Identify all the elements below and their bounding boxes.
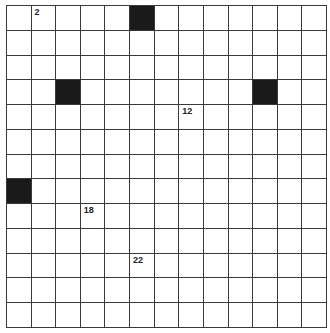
grid-cell[interactable] — [81, 179, 106, 204]
grid-cell[interactable] — [32, 56, 57, 81]
grid-cell[interactable] — [105, 31, 130, 56]
grid-cell[interactable] — [179, 303, 204, 328]
grid-cell[interactable] — [278, 179, 303, 204]
grid-cell[interactable] — [105, 130, 130, 155]
grid-cell[interactable] — [204, 155, 229, 180]
grid-cell[interactable] — [253, 6, 278, 31]
grid-cell[interactable] — [130, 56, 155, 81]
grid-cell[interactable] — [302, 6, 327, 31]
grid-cell[interactable] — [56, 179, 81, 204]
grid-cell[interactable] — [7, 229, 32, 254]
grid-cell[interactable] — [155, 80, 180, 105]
grid-cell[interactable] — [229, 155, 254, 180]
grid-cell[interactable] — [302, 204, 327, 229]
grid-cell[interactable] — [179, 155, 204, 180]
grid-cell[interactable] — [105, 254, 130, 279]
grid-cell[interactable] — [7, 80, 32, 105]
grid-cell[interactable] — [105, 229, 130, 254]
grid-cell[interactable] — [32, 130, 57, 155]
grid-cell[interactable] — [7, 278, 32, 303]
grid-cell[interactable] — [7, 303, 32, 328]
grid-cell[interactable] — [105, 278, 130, 303]
grid-cell[interactable] — [105, 303, 130, 328]
grid-cell[interactable] — [204, 229, 229, 254]
grid-cell[interactable] — [56, 105, 81, 130]
grid-cell[interactable] — [56, 6, 81, 31]
grid-cell[interactable] — [105, 56, 130, 81]
grid-cell[interactable] — [302, 130, 327, 155]
grid-cell[interactable] — [179, 229, 204, 254]
grid-cell[interactable] — [302, 56, 327, 81]
grid-cell[interactable] — [7, 204, 32, 229]
grid-cell[interactable] — [204, 303, 229, 328]
grid-cell[interactable] — [179, 254, 204, 279]
grid-cell[interactable] — [81, 130, 106, 155]
grid-cell[interactable] — [253, 254, 278, 279]
grid-cell[interactable] — [130, 155, 155, 180]
grid-cell[interactable] — [253, 229, 278, 254]
grid-cell[interactable] — [56, 130, 81, 155]
grid-cell[interactable] — [32, 105, 57, 130]
grid-cell[interactable] — [229, 105, 254, 130]
grid-cell[interactable] — [130, 130, 155, 155]
grid-cell[interactable] — [155, 229, 180, 254]
grid-cell[interactable] — [229, 278, 254, 303]
grid-cell[interactable] — [105, 105, 130, 130]
grid-cell[interactable] — [81, 278, 106, 303]
grid-cell[interactable] — [32, 80, 57, 105]
grid-cell[interactable] — [253, 155, 278, 180]
grid-cell[interactable] — [229, 6, 254, 31]
grid-cell[interactable] — [253, 56, 278, 81]
grid-cell[interactable] — [130, 80, 155, 105]
grid-cell[interactable] — [278, 80, 303, 105]
grid-cell[interactable] — [253, 278, 278, 303]
grid-cell[interactable] — [155, 155, 180, 180]
grid-cell[interactable] — [32, 179, 57, 204]
grid-cell[interactable] — [7, 254, 32, 279]
grid-cell[interactable] — [105, 80, 130, 105]
grid-cell[interactable] — [204, 6, 229, 31]
grid-cell[interactable] — [278, 229, 303, 254]
grid-cell[interactable] — [56, 303, 81, 328]
grid-cell[interactable] — [204, 204, 229, 229]
grid-cell[interactable] — [56, 155, 81, 180]
grid-cell[interactable] — [204, 130, 229, 155]
grid-cell[interactable] — [278, 6, 303, 31]
grid-cell[interactable] — [253, 204, 278, 229]
grid-cell[interactable] — [32, 229, 57, 254]
grid-cell[interactable] — [155, 56, 180, 81]
grid-cell[interactable] — [204, 105, 229, 130]
grid-cell[interactable] — [229, 229, 254, 254]
grid-cell[interactable] — [253, 31, 278, 56]
grid-cell[interactable] — [155, 303, 180, 328]
grid-cell[interactable] — [105, 204, 130, 229]
grid-cell[interactable] — [130, 105, 155, 130]
grid-cell[interactable] — [7, 6, 32, 31]
grid-cell[interactable] — [155, 254, 180, 279]
grid-cell[interactable] — [302, 278, 327, 303]
grid-cell[interactable] — [253, 303, 278, 328]
grid-cell[interactable] — [155, 204, 180, 229]
grid-cell[interactable] — [105, 179, 130, 204]
grid-cell[interactable] — [7, 105, 32, 130]
grid-cell[interactable] — [179, 6, 204, 31]
grid-cell[interactable] — [204, 278, 229, 303]
grid-cell[interactable] — [155, 31, 180, 56]
grid-cell[interactable] — [81, 80, 106, 105]
grid-cell[interactable] — [32, 254, 57, 279]
grid-cell[interactable] — [179, 31, 204, 56]
grid-cell[interactable] — [56, 204, 81, 229]
grid-cell[interactable] — [179, 56, 204, 81]
grid-cell[interactable] — [81, 105, 106, 130]
grid-cell[interactable]: 12 — [179, 105, 204, 130]
grid-cell[interactable] — [155, 278, 180, 303]
grid-cell[interactable]: 22 — [130, 254, 155, 279]
grid-cell[interactable] — [253, 105, 278, 130]
grid-cell[interactable] — [179, 80, 204, 105]
grid-cell[interactable] — [32, 31, 57, 56]
grid-cell[interactable] — [229, 80, 254, 105]
grid-cell[interactable] — [130, 303, 155, 328]
grid-cell[interactable] — [32, 155, 57, 180]
grid-cell[interactable] — [32, 303, 57, 328]
grid-cell[interactable] — [56, 31, 81, 56]
